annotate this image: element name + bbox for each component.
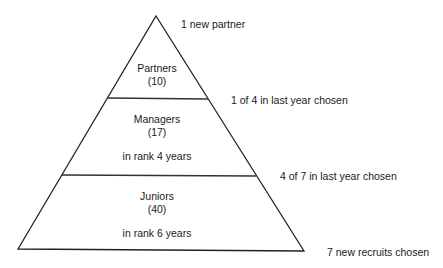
divider-partners-managers [108,98,208,99]
tier-juniors-count: (40) [148,203,167,215]
tier-juniors-tenure: in rank 6 years [123,227,192,239]
divider-managers-juniors [62,175,256,176]
tier-partners-count: (10) [148,75,167,87]
tier-managers-tenure: in rank 4 years [123,150,192,162]
annotation-partner-promotion: 1 of 4 in last year chosen [231,94,348,106]
annotation-manager-promotion: 4 of 7 in last year chosen [280,170,397,182]
annotation-new-recruits: 7 new recruits chosen [327,246,429,258]
tier-juniors-label: Juniors [140,190,174,202]
tier-partners-label: Partners [137,62,177,74]
tier-managers-label: Managers [134,113,181,125]
annotation-new-partner: 1 new partner [181,18,245,30]
pyramid-outline [0,0,443,268]
tier-managers-count: (17) [148,126,167,138]
